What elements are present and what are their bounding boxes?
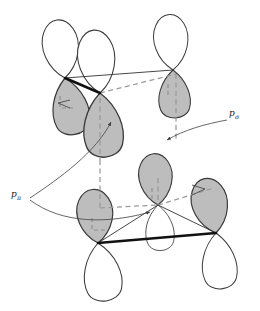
p-orbital-overlap-diagram: p σ p π xyxy=(0,0,260,311)
